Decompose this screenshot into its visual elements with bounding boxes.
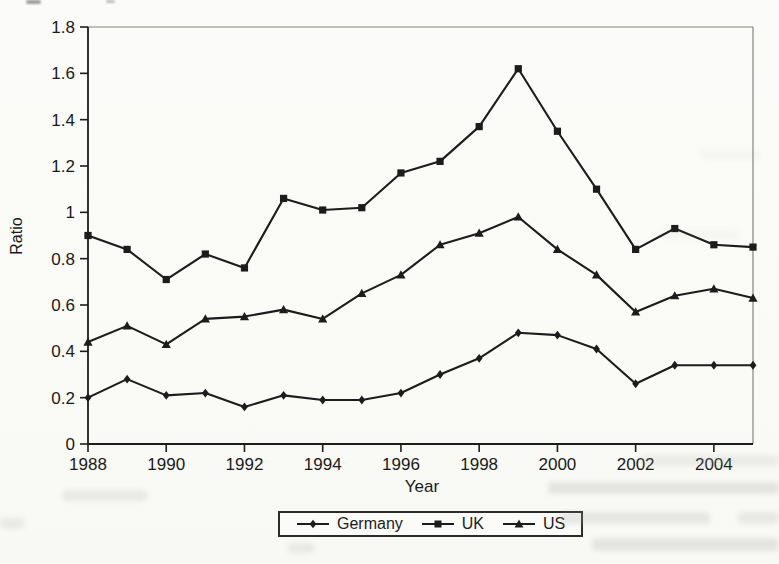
series-uk-marker: [515, 65, 522, 72]
legend-label-germany: Germany: [337, 515, 403, 533]
series-germany-marker: [671, 361, 678, 370]
legend-diamond-marker-icon: [296, 518, 330, 530]
x-tick-label: 1994: [304, 455, 342, 474]
x-tick-label: 1996: [382, 455, 420, 474]
series-germany-marker: [398, 389, 405, 398]
series-germany-marker: [358, 396, 365, 405]
legend-square-marker-icon: [421, 518, 455, 530]
series-germany-marker: [163, 391, 170, 400]
series-us-marker: [514, 212, 523, 220]
series-germany-marker: [750, 361, 757, 370]
series-germany-line: [88, 333, 753, 407]
x-axis-title: Year: [405, 477, 440, 496]
print-bleed-artifact: [660, 230, 740, 239]
series-uk-marker: [202, 250, 209, 257]
print-bleed-artifact: [548, 482, 779, 494]
y-tick-label: 1.2: [51, 157, 75, 176]
y-tick-label: 0.4: [51, 342, 75, 361]
series-germany-marker: [202, 389, 209, 398]
print-bleed-artifact: [700, 150, 760, 159]
print-bleed-artifact: [288, 543, 314, 553]
plot-area: 00.20.40.60.811.21.41.61.819881990199219…: [51, 18, 757, 474]
series-uk-line: [88, 69, 753, 280]
x-tick-label: 1992: [226, 455, 264, 474]
series-uk-marker: [593, 186, 600, 193]
legend-item-uk: UK: [421, 515, 484, 533]
series-uk-marker: [632, 246, 639, 253]
y-tick-label: 0.8: [51, 250, 75, 269]
y-tick-label: 1.8: [51, 18, 75, 37]
series-uk-marker: [397, 169, 404, 176]
print-bleed-artifact: [0, 518, 24, 529]
series-uk-marker: [710, 241, 717, 248]
series-germany-marker: [476, 354, 483, 363]
series-uk-marker: [476, 123, 483, 130]
series-germany-marker: [124, 375, 131, 384]
series-germany-marker: [554, 331, 561, 340]
series-uk-marker: [554, 128, 561, 135]
y-tick-label: 1.4: [51, 111, 75, 130]
legend-item-germany: Germany: [296, 515, 403, 533]
series-us-marker: [709, 284, 718, 292]
series-uk-marker: [436, 158, 443, 165]
x-tick-label: 1990: [147, 455, 185, 474]
y-tick-label: 0.2: [51, 389, 75, 408]
x-tick-label: 1988: [69, 455, 107, 474]
series-germany-marker: [241, 403, 248, 412]
y-tick-label: 0.6: [51, 296, 75, 315]
series-germany-marker: [437, 370, 444, 379]
print-bleed-artifact: [592, 538, 779, 551]
series-us-marker: [592, 270, 601, 278]
y-axis-title: Ratio: [8, 217, 25, 254]
y-tick-label: 0: [66, 435, 75, 454]
series-germany-marker: [319, 396, 326, 405]
series-uk-marker: [163, 276, 170, 283]
series-us-marker: [123, 321, 132, 329]
print-bleed-artifact: [640, 455, 779, 466]
y-tick-label: 1: [66, 203, 75, 222]
series-uk-marker: [124, 246, 131, 253]
scan-smudge: [106, 0, 115, 3]
series-uk-marker: [280, 195, 287, 202]
series-germany-marker: [710, 361, 717, 370]
series-uk-marker: [84, 232, 91, 239]
series-us-marker: [279, 305, 288, 313]
series-uk-marker: [241, 264, 248, 271]
y-tick-label: 1.6: [51, 64, 75, 83]
print-bleed-artifact: [560, 512, 710, 524]
legend-item-us: US: [502, 515, 565, 533]
series-germany-marker: [280, 391, 287, 400]
x-tick-label: 2000: [538, 455, 576, 474]
series-uk-marker: [358, 204, 365, 211]
legend-triangle-marker-icon: [502, 518, 536, 530]
series-germany-marker: [515, 328, 522, 337]
print-bleed-artifact: [62, 490, 147, 501]
chart-legend: GermanyUKUS: [278, 511, 583, 537]
series-germany-marker: [85, 393, 92, 402]
print-bleed-artifact: [738, 512, 779, 524]
legend-label-uk: UK: [462, 515, 484, 533]
chart-canvas: Year Ratio 00.20.40.60.811.21.41.61.8198…: [0, 0, 779, 564]
series-us-line: [88, 217, 753, 344]
scanned-figure-page: Year Ratio 00.20.40.60.811.21.41.61.8198…: [0, 0, 779, 564]
series-uk-marker: [749, 243, 756, 250]
scan-smudge: [26, 0, 41, 4]
series-uk-marker: [319, 206, 326, 213]
x-tick-label: 1998: [460, 455, 498, 474]
